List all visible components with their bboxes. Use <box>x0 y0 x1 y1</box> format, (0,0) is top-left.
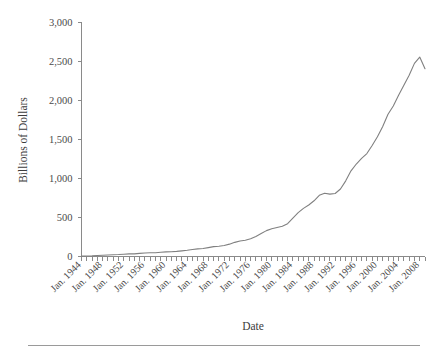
chart-figure: 05001,0001,5002,0002,5003,000 Jan. 1944J… <box>0 0 433 354</box>
y-tick-label: 3,000 <box>49 17 73 28</box>
y-tick-label: 2,000 <box>49 95 73 106</box>
x-axis-ticks <box>82 257 426 261</box>
y-tick-label: 1,500 <box>49 134 73 145</box>
x-axis-title: Date <box>242 320 264 332</box>
y-axis-title: Billions of Dollars <box>17 97 29 183</box>
y-axis-ticks <box>78 22 82 257</box>
y-tick-label: 0 <box>67 251 72 262</box>
x-axis-tick-labels: Jan. 1944Jan. 1948Jan. 1952Jan. 1956Jan.… <box>48 259 421 294</box>
y-tick-label: 1,000 <box>49 173 73 184</box>
y-tick-label: 500 <box>57 212 73 223</box>
y-tick-label: 2,500 <box>49 56 73 67</box>
data-series-line <box>82 57 426 256</box>
y-axis-tick-labels: 05001,0001,5002,0002,5003,000 <box>49 17 73 263</box>
line-chart: 05001,0001,5002,0002,5003,000 Jan. 1944J… <box>0 0 433 354</box>
